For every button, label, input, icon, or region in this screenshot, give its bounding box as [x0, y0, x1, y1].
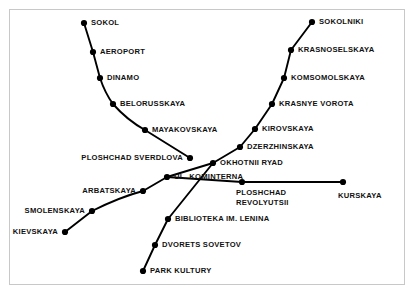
station-marker-aeroport[interactable] [90, 49, 96, 55]
station-marker-belorusskaya[interactable] [110, 101, 116, 107]
station-label-kievskaya: KIEVSKAYA [13, 227, 58, 237]
station-marker-kurskaya[interactable] [340, 179, 346, 185]
station-label-okhotnii-ryad: OKHOTNII RYAD [220, 158, 283, 168]
station-marker-sokolniki[interactable] [309, 19, 315, 25]
station-marker-smolenskaya[interactable] [89, 208, 95, 214]
metro-line-southwest-branch [65, 177, 167, 232]
station-label-sokol: SOKOL [91, 18, 119, 28]
station-marker-dvorets-sovetov[interactable] [152, 242, 158, 248]
metro-line-northwest-branch [84, 23, 190, 158]
station-label-dvorets-sovetov: DVORETS SOVETOV [162, 240, 241, 250]
station-marker-biblioteka-im-lenina[interactable] [165, 216, 171, 222]
station-label-krasnoselskaya: KRASNOSELSKAYA [298, 45, 374, 55]
station-label-park-kultury: PARK KULTURY [150, 266, 212, 276]
station-marker-dinamo[interactable] [97, 75, 103, 81]
station-label-biblioteka-im-lenina: BIBLIOTEKA IM. LENINA [175, 214, 269, 224]
station-label-komsomolskaya: KOMSOMOLSKAYA [291, 73, 365, 83]
station-label-ploshchad-revolyutsii: PLOSHCHAD REVOLYUTSII [236, 188, 289, 207]
station-marker-arbatskaya[interactable] [140, 188, 146, 194]
station-marker-kirovskaya[interactable] [252, 126, 258, 132]
station-marker-krasnoselskaya[interactable] [288, 47, 294, 53]
station-marker-ul-kominterna[interactable] [164, 174, 170, 180]
station-label-ul-kominterna: UL. KOMINTERNA [174, 172, 243, 182]
station-marker-dzerzhinskaya[interactable] [237, 144, 243, 150]
station-label-kirovskaya: KIROVSKAYA [262, 124, 314, 134]
station-marker-mayakovskaya[interactable] [142, 127, 148, 133]
metro-map-page: SOKOLAEROPORTDINAMOBELORUSSKAYAMAYAKOVSK… [0, 0, 415, 295]
station-marker-komsomolskaya[interactable] [281, 75, 287, 81]
station-marker-kievskaya[interactable] [62, 229, 68, 235]
station-label-mayakovskaya: MAYAKOVSKAYA [152, 125, 218, 135]
metro-line-network [0, 0, 415, 295]
station-label-kurskaya: KURSKAYA [338, 191, 382, 201]
station-label-aeroport: AEROPORT [100, 47, 145, 57]
station-label-sokolniki: SOKOLNIKI [319, 17, 363, 27]
station-label-arbatskaya: ARBATSKAYA [82, 186, 136, 196]
station-label-dzerzhinskaya: DZERZHINSKAYA [247, 142, 314, 152]
station-marker-sokol[interactable] [81, 20, 87, 26]
station-label-smolenskaya: SMOLENSKAYA [25, 206, 85, 216]
station-label-ploshchad-sverdlova: PLOSHCHAD SVERDLOVA [81, 153, 183, 163]
station-marker-ploshchad-sverdlova[interactable] [187, 155, 193, 161]
station-marker-krasnye-vorota[interactable] [269, 101, 275, 107]
station-label-belorusskaya: BELORUSSKAYA [120, 99, 185, 109]
station-marker-park-kultury[interactable] [140, 268, 146, 274]
station-label-krasnye-vorota: KRASNYE VOROTA [279, 99, 354, 109]
station-marker-okhotnii-ryad[interactable] [210, 160, 216, 166]
station-label-dinamo: DINAMO [107, 73, 139, 83]
